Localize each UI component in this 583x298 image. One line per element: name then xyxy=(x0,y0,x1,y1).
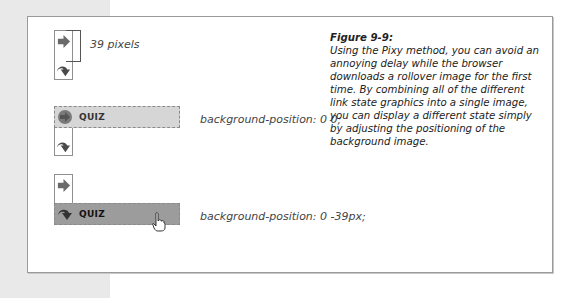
offset-bracket xyxy=(66,30,81,62)
arrow-curve-down-icon xyxy=(57,206,73,222)
figure-caption: Figure 9-9: Using the Pixy method, you c… xyxy=(330,31,540,148)
figure-caption-text: Using the Pixy method, you can avoid an … xyxy=(330,45,539,147)
quiz-button-label: QUIZ xyxy=(79,112,105,122)
arrow-curve-down-icon xyxy=(56,63,71,78)
arrow-right-icon xyxy=(56,178,71,193)
figure-title: Figure 9-9: xyxy=(330,31,540,44)
arrow-curve-down-icon xyxy=(56,139,71,154)
arrow-right-icon xyxy=(57,109,73,125)
quiz-button-label: QUIZ xyxy=(79,209,105,219)
css-note-hover: background-position: 0 -39px; xyxy=(200,210,366,223)
quiz-button-normal[interactable]: QUIZ xyxy=(54,106,180,128)
css-note-normal: background-position: 0 0; xyxy=(200,113,341,126)
offset-label: 39 pixels xyxy=(90,38,140,51)
hand-cursor-icon xyxy=(152,212,166,232)
